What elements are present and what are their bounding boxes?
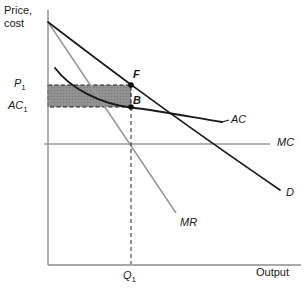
point-b-label: B — [133, 94, 141, 107]
quantity-tick-subscript: 1 — [132, 275, 136, 284]
price-tick-subscript: 1 — [21, 83, 25, 92]
demand-curve-label: D — [286, 186, 294, 199]
mr-curve-label: MR — [180, 216, 197, 229]
price-tick-label: P1 — [14, 77, 26, 93]
mr-curve — [48, 22, 176, 213]
quantity-tick-letter: Q — [123, 269, 132, 281]
avgcost-tick-label: AC1 — [8, 99, 28, 115]
y-axis-label: Price, cost — [4, 4, 32, 30]
point-f-label: F — [133, 68, 140, 81]
y-axis-label-line2: cost — [4, 17, 32, 30]
avgcost-tick-subscript: 1 — [23, 105, 27, 114]
x-axis-label: Output — [256, 266, 289, 279]
mc-curve-label: MC — [277, 136, 294, 149]
monopoly-profit-diagram — [0, 0, 306, 291]
ac-leader-line — [222, 120, 229, 122]
y-axis-label-line1: Price, — [4, 4, 32, 17]
chart-canvas: Price, cost Output P1 AC1 Q1 D MR AC MC … — [0, 0, 306, 291]
quantity-tick-label: Q1 — [123, 269, 136, 285]
ac-curve-label: AC — [231, 113, 246, 126]
point-f-marker — [128, 82, 134, 88]
avgcost-tick-letter: AC — [8, 99, 23, 111]
